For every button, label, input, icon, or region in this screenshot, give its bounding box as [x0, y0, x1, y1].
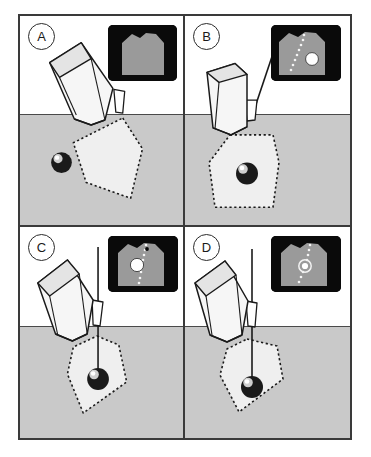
panel-label-a: A [28, 23, 55, 50]
panel-b: B [185, 16, 350, 227]
ultrasound-screen-d [271, 236, 341, 292]
ultrasound-probe-b [207, 64, 257, 135]
inset-target-c [130, 258, 143, 271]
panel-a: A [20, 16, 185, 227]
panel-label-c: C [28, 234, 55, 261]
panel-c: C [20, 227, 185, 438]
ultrasound-probe-d [195, 261, 257, 342]
figure-root: A [0, 0, 371, 457]
scan-plane-a [73, 118, 142, 198]
inset-needle-tip-d [302, 263, 308, 269]
needle-guide-c [92, 300, 103, 326]
needle-guide-a [114, 89, 125, 113]
ultrasound-probe-c [38, 260, 103, 341]
panel-d: D [185, 227, 350, 438]
inset-tissue-b [279, 32, 325, 75]
ultrasound-screen-b [271, 25, 341, 81]
panel-label-d: D [193, 234, 220, 261]
ultrasound-screen-a [108, 25, 177, 81]
inset-needle-tip-c [145, 247, 149, 251]
target-lesion-d [241, 376, 263, 398]
target-lesion-c [87, 368, 109, 390]
target-lesion-a [51, 152, 72, 173]
target-lesion-b [236, 163, 258, 185]
ultrasound-screen-c [108, 236, 178, 292]
inset-tissue-a [122, 33, 164, 75]
inset-target-b [306, 53, 319, 66]
panel-label-b: B [193, 23, 220, 50]
panel-grid: A [18, 14, 352, 440]
